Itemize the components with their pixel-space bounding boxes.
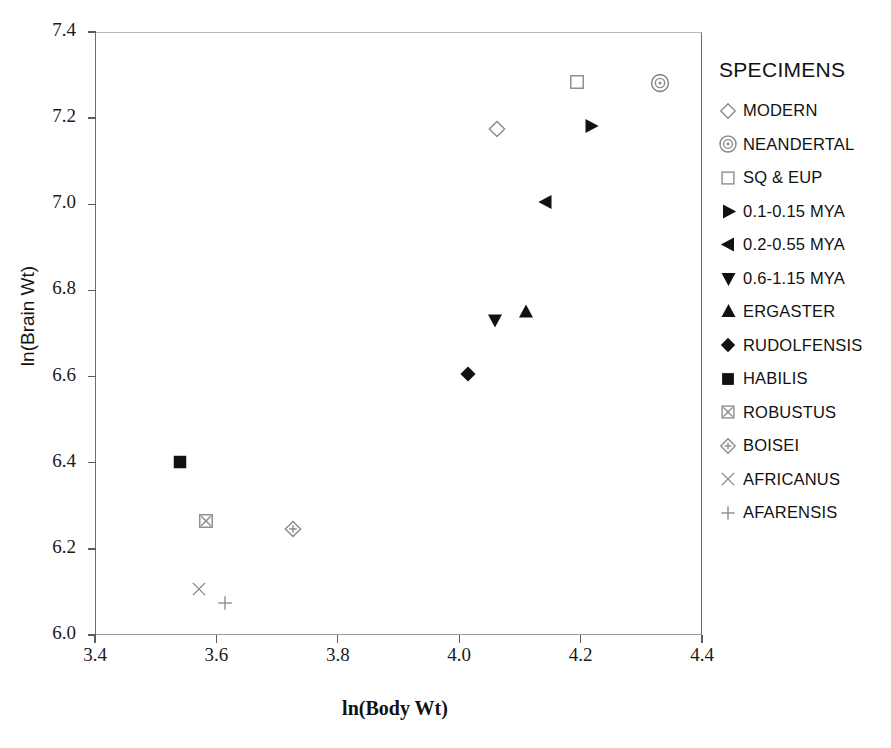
legend-item-label: HABILIS: [743, 369, 808, 388]
legend-marker-icon: [713, 399, 743, 425]
legend-marker-icon: [713, 299, 743, 325]
x-axis-title: ln(Body Wt): [0, 697, 790, 720]
legend-marker-icon: [713, 98, 743, 124]
data-point-canvas: [95, 32, 702, 635]
legend-item-sq-eup[interactable]: SQ & EUP: [713, 161, 891, 195]
data-point-afarensis: [216, 594, 234, 616]
x-tick-label: 4.2: [551, 644, 611, 666]
y-axis-title: ln(Brain Wt): [17, 236, 39, 396]
data-point-rudolfensis: [458, 365, 477, 388]
y-tick-label: 7.4: [30, 19, 76, 41]
x-tick-label: 4.0: [429, 644, 489, 666]
x-tick: [94, 635, 95, 643]
legend-item-label: SQ & EUP: [743, 168, 823, 187]
x-tick-label: 3.8: [308, 644, 368, 666]
legend-marker-icon: [713, 466, 743, 492]
legend-item-label: AFARENSIS: [743, 503, 837, 522]
legend-item-0-1-0-15-mya[interactable]: 0.1-0.15 MYA: [713, 195, 891, 229]
legend-item-africanus[interactable]: AFRICANUS: [713, 463, 891, 497]
legend-marker-icon: [713, 131, 743, 157]
legend-item-label: 0.2-0.55 MYA: [743, 235, 845, 254]
y-tick-label: 6.2: [30, 536, 76, 558]
legend-item-afarensis[interactable]: AFARENSIS: [713, 496, 891, 530]
legend-marker-icon: [713, 332, 743, 358]
x-tick: [216, 635, 217, 643]
legend-item-label: ERGASTER: [743, 302, 835, 321]
legend-item-label: MODERN: [743, 101, 818, 120]
x-tick-label: 4.4: [672, 644, 732, 666]
data-point-0-6-1-15-mya: [486, 310, 505, 333]
legend-item-habilis[interactable]: HABILIS: [713, 362, 891, 396]
y-tick-label: 7.0: [30, 191, 76, 213]
legend-item-modern[interactable]: MODERN: [713, 94, 891, 128]
legend-item-ergaster[interactable]: ERGASTER: [713, 295, 891, 329]
legend-item-rudolfensis[interactable]: RUDOLFENSIS: [713, 329, 891, 363]
data-point-habilis: [170, 452, 189, 475]
legend-marker-icon: [713, 232, 743, 258]
legend-item-label: NEANDERTAL: [743, 135, 854, 154]
y-tick-label: 6.0: [30, 622, 76, 644]
legend-marker-icon: [713, 198, 743, 224]
legend-marker-icon: [713, 165, 743, 191]
y-tick: [88, 548, 96, 549]
legend-item-label: 0.1-0.15 MYA: [743, 202, 845, 221]
legend-item-0-6-1-15-mya[interactable]: 0.6-1.15 MYA: [713, 262, 891, 296]
data-point-modern: [487, 120, 506, 143]
data-point-0-2-0-55-mya: [537, 192, 556, 215]
legend-item-boisei[interactable]: BOISEI: [713, 429, 891, 463]
data-point-africanus: [190, 580, 208, 602]
legend-title: SPECIMENS: [719, 58, 891, 82]
x-tick-label: 3.6: [186, 644, 246, 666]
y-tick: [88, 204, 96, 205]
y-tick: [88, 462, 96, 463]
legend: SPECIMENS MODERNNEANDERTALSQ & EUP0.1-0.…: [713, 58, 891, 530]
legend-item-robustus[interactable]: ROBUSTUS: [713, 396, 891, 430]
data-point-ergaster: [516, 302, 535, 325]
legend-item-0-2-0-55-mya[interactable]: 0.2-0.55 MYA: [713, 228, 891, 262]
data-point-neandertal: [650, 72, 671, 97]
data-point-sq-eup: [567, 72, 586, 95]
x-tick-label: 3.4: [65, 644, 125, 666]
y-tick-label: 7.2: [30, 105, 76, 127]
x-tick: [337, 635, 338, 643]
y-tick: [88, 376, 96, 377]
x-tick: [701, 635, 702, 643]
legend-marker-icon: [713, 366, 743, 392]
legend-item-label: 0.6-1.15 MYA: [743, 269, 845, 288]
legend-marker-icon: [713, 433, 743, 459]
y-tick: [88, 31, 96, 32]
legend-item-label: ROBUSTUS: [743, 403, 836, 422]
scatter-plot-figure: 6.06.26.46.66.87.07.27.4 3.43.63.84.04.2…: [0, 0, 891, 748]
legend-item-neandertal[interactable]: NEANDERTAL: [713, 128, 891, 162]
y-tick-label: 6.4: [30, 450, 76, 472]
legend-marker-icon: [713, 265, 743, 291]
data-point-0-1-0-15-mya: [581, 117, 600, 140]
data-point-boisei: [283, 520, 302, 543]
legend-item-label: BOISEI: [743, 436, 799, 455]
data-point-robustus: [197, 512, 216, 535]
legend-item-label: RUDOLFENSIS: [743, 336, 863, 355]
legend-item-label: AFRICANUS: [743, 470, 840, 489]
legend-marker-icon: [713, 500, 743, 526]
y-tick: [88, 290, 96, 291]
x-tick: [580, 635, 581, 643]
y-tick: [88, 117, 96, 118]
legend-items: MODERNNEANDERTALSQ & EUP0.1-0.15 MYA0.2-…: [713, 94, 891, 530]
x-tick: [459, 635, 460, 643]
